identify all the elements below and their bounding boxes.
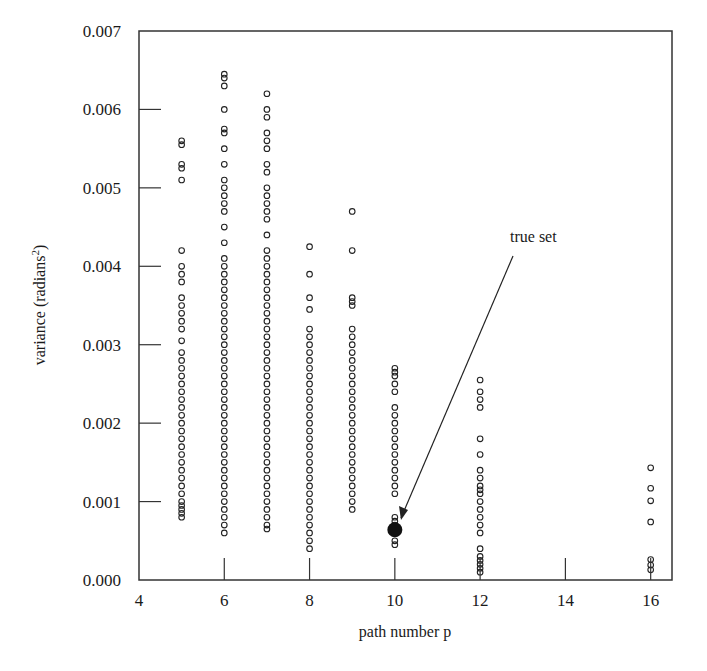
data-point	[264, 452, 270, 458]
data-point	[392, 389, 398, 395]
data-point	[179, 460, 185, 466]
data-point	[264, 263, 270, 269]
data-point	[307, 546, 313, 552]
data-point	[221, 507, 227, 513]
data-point	[221, 522, 227, 528]
data-point	[477, 530, 483, 536]
data-point	[221, 334, 227, 340]
data-point	[179, 165, 185, 171]
data-point	[264, 169, 270, 175]
x-tick-label: 4	[135, 591, 144, 610]
data-point	[221, 201, 227, 207]
data-point	[179, 381, 185, 387]
data-point	[307, 452, 313, 458]
data-point	[392, 428, 398, 434]
data-point	[264, 287, 270, 293]
data-point	[221, 373, 227, 379]
data-point	[392, 475, 398, 481]
data-point	[307, 483, 313, 489]
data-point	[221, 405, 227, 411]
data-point	[221, 397, 227, 403]
data-point	[221, 413, 227, 419]
data-point	[477, 397, 483, 403]
data-point	[221, 279, 227, 285]
data-point	[221, 350, 227, 356]
data-point	[349, 413, 355, 419]
data-point	[307, 420, 313, 426]
data-point	[264, 491, 270, 497]
axes	[139, 31, 672, 580]
data-point	[477, 514, 483, 520]
data-point	[349, 428, 355, 434]
data-point	[179, 318, 185, 324]
data-point	[477, 467, 483, 473]
data-point	[221, 460, 227, 466]
y-tick-label: 0.003	[83, 336, 121, 355]
data-point	[221, 185, 227, 191]
data-point	[349, 248, 355, 254]
data-point	[221, 342, 227, 348]
data-point	[648, 498, 654, 504]
data-point	[648, 485, 654, 491]
data-point	[179, 338, 185, 344]
data-point	[264, 373, 270, 379]
data-point	[221, 514, 227, 520]
data-point	[307, 358, 313, 364]
data-point	[392, 483, 398, 489]
data-point	[264, 526, 270, 532]
data-point	[264, 209, 270, 215]
data-point	[477, 499, 483, 505]
data-point	[221, 193, 227, 199]
x-tick-label: 16	[642, 591, 659, 610]
true-set-annotation: true set	[387, 228, 557, 537]
data-point	[221, 177, 227, 183]
data-point	[307, 295, 313, 301]
data-point	[264, 107, 270, 113]
data-point	[264, 279, 270, 285]
data-point	[264, 436, 270, 442]
data-point	[179, 177, 185, 183]
data-point	[264, 114, 270, 120]
data-point	[307, 538, 313, 544]
data-point	[264, 334, 270, 340]
data-point	[392, 444, 398, 450]
data-point	[264, 413, 270, 419]
data-point	[179, 303, 185, 309]
data-point	[221, 483, 227, 489]
data-point	[392, 467, 398, 473]
data-point	[221, 75, 227, 81]
data-point	[349, 460, 355, 466]
data-point	[349, 326, 355, 332]
data-point	[264, 428, 270, 434]
data-point	[221, 83, 227, 89]
y-tick-label: 0.001	[83, 493, 121, 512]
data-point	[221, 224, 227, 230]
x-tick-label: 12	[472, 591, 489, 610]
data-point	[392, 452, 398, 458]
y-tick-label: 0.000	[83, 571, 121, 590]
x-tick-label: 8	[305, 591, 314, 610]
data-point	[307, 342, 313, 348]
y-tick-label: 0.004	[83, 257, 122, 276]
true-set-arrow	[401, 256, 513, 518]
data-point	[648, 519, 654, 525]
data-point	[264, 460, 270, 466]
data-point	[221, 107, 227, 113]
data-point	[307, 530, 313, 536]
x-tick-label: 14	[557, 591, 575, 610]
data-point	[477, 491, 483, 497]
data-point	[307, 326, 313, 332]
data-point	[307, 507, 313, 513]
data-point	[264, 248, 270, 254]
data-point	[477, 452, 483, 458]
data-point	[221, 295, 227, 301]
data-point	[307, 436, 313, 442]
data-point	[264, 146, 270, 152]
data-point	[264, 295, 270, 301]
data-point	[349, 397, 355, 403]
data-point	[221, 358, 227, 364]
data-point	[264, 444, 270, 450]
data-point	[221, 365, 227, 371]
data-point	[349, 381, 355, 387]
data-point	[307, 307, 313, 313]
